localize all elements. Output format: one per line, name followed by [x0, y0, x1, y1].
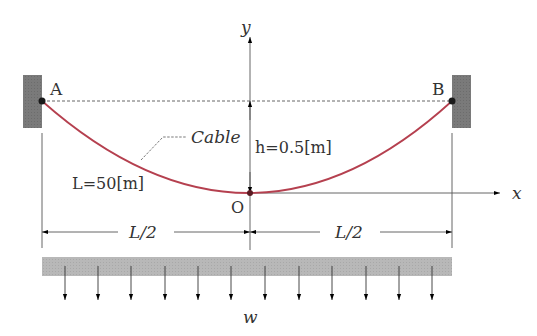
origin-dot	[247, 190, 253, 196]
label-x-axis: x	[512, 183, 522, 203]
cable-leader-line	[141, 137, 186, 160]
label-point-a: A	[49, 79, 63, 99]
label-half-span-left: L/2	[128, 222, 157, 242]
distributed-load-bar	[42, 257, 452, 276]
label-length: L=50[m]	[72, 174, 144, 193]
label-half-span-right: L/2	[334, 222, 363, 242]
label-point-b: B	[432, 79, 445, 99]
label-cable: Cable	[191, 127, 241, 147]
label-load: w	[243, 307, 258, 327]
cable-diagram: A B y x Cable h=0.5[m] L=50[m] O L/2 L/2…	[0, 0, 537, 336]
label-y-axis: y	[240, 17, 251, 37]
point-a-dot	[39, 98, 46, 105]
label-sag: h=0.5[m]	[255, 138, 332, 157]
point-b-dot	[449, 98, 456, 105]
label-origin: O	[231, 198, 244, 217]
